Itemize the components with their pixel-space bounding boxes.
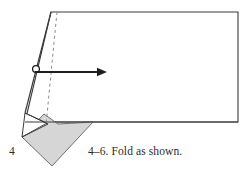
step-number-label: 4 bbox=[9, 146, 15, 158]
figure-root: 4 4–6. Fold as shown. bbox=[0, 0, 250, 181]
paper-sheet bbox=[25, 12, 238, 122]
figure-caption: 4–6. Fold as shown. bbox=[88, 146, 182, 158]
